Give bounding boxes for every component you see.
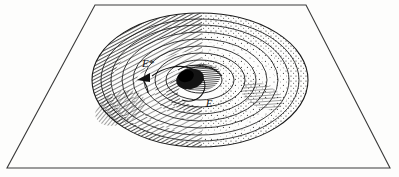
label-e: E <box>205 97 213 109</box>
label-e-star: E* <box>141 57 155 69</box>
funnel-diagram: E* E <box>0 0 399 177</box>
figure-canvas: E* E <box>0 0 399 177</box>
